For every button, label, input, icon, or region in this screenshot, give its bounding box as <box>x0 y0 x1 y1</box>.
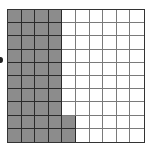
grid-cell-empty <box>117 129 131 142</box>
grid-cell-empty <box>130 102 144 115</box>
grid-cell-empty <box>130 50 144 63</box>
grid-cell-empty <box>117 50 131 63</box>
grid-cell-shaded <box>49 129 63 142</box>
grid-cell-empty <box>103 102 117 115</box>
grid-cell-empty <box>130 129 144 142</box>
grid-cell-empty <box>90 10 104 23</box>
grid-cell-empty <box>90 50 104 63</box>
grid-cell-shaded <box>22 23 36 36</box>
grid-cell-empty <box>62 63 76 76</box>
grid-cell-empty <box>103 63 117 76</box>
grid-cell-shaded <box>22 36 36 49</box>
grid-cell-shaded <box>35 63 49 76</box>
grid-cell-shaded <box>22 102 36 115</box>
grid-cell-shaded <box>49 23 63 36</box>
grid-cell-shaded <box>8 116 22 129</box>
grid-cell-empty <box>117 23 131 36</box>
grid-cell-empty <box>76 129 90 142</box>
grid-cell-empty <box>76 116 90 129</box>
grid-cell-shaded <box>35 50 49 63</box>
grid-cell-shaded <box>49 76 63 89</box>
ten-by-ten-grid <box>7 9 145 143</box>
grid-cell-empty <box>62 76 76 89</box>
grid-cell-empty <box>117 76 131 89</box>
grid-cell-shaded <box>62 129 76 142</box>
grid-cell-shaded <box>22 76 36 89</box>
grid-cell-empty <box>117 116 131 129</box>
grid-cell-empty <box>130 10 144 23</box>
grid-cell-empty <box>76 89 90 102</box>
grid-cell-empty <box>103 76 117 89</box>
grid-cell-shaded <box>22 50 36 63</box>
grid-cell-shaded <box>49 116 63 129</box>
grid-cell-empty <box>117 102 131 115</box>
grid-cell-empty <box>103 116 117 129</box>
grid-cell-empty <box>90 63 104 76</box>
grid-cell-shaded <box>35 129 49 142</box>
grid-cell-empty <box>62 23 76 36</box>
grid-cell-shaded <box>8 89 22 102</box>
grid-cell-empty <box>62 36 76 49</box>
grid-cell-empty <box>76 102 90 115</box>
grid-cell-shaded <box>8 23 22 36</box>
grid-cell-shaded <box>8 10 22 23</box>
grid-cell-shaded <box>35 23 49 36</box>
grid-cell-empty <box>62 89 76 102</box>
grid-cell-shaded <box>49 63 63 76</box>
grid-cell-empty <box>117 89 131 102</box>
grid-cell-empty <box>103 50 117 63</box>
grid-cell-empty <box>117 36 131 49</box>
grid-cell-shaded <box>22 116 36 129</box>
grid-cell-empty <box>90 76 104 89</box>
grid-cell-empty <box>103 89 117 102</box>
grid-cell-empty <box>76 23 90 36</box>
grid-cell-shaded <box>8 63 22 76</box>
grid-cell-empty <box>117 10 131 23</box>
grid-cell-empty <box>62 102 76 115</box>
grid-cell-empty <box>103 129 117 142</box>
grid-cell-empty <box>130 36 144 49</box>
grid-cell-shaded <box>49 36 63 49</box>
grid-cell-shaded <box>22 63 36 76</box>
grid-cell-shaded <box>35 36 49 49</box>
grid-cell-shaded <box>49 89 63 102</box>
grid-cell-shaded <box>35 76 49 89</box>
grid-cell-empty <box>62 10 76 23</box>
grid-cell-shaded <box>49 50 63 63</box>
grid-cell-shaded <box>22 89 36 102</box>
grid-cell-empty <box>103 23 117 36</box>
grid-cell-empty <box>90 89 104 102</box>
grid-cell-empty <box>76 36 90 49</box>
grid-cell-empty <box>90 23 104 36</box>
grid-cell-shaded <box>8 102 22 115</box>
grid-cell-empty <box>103 10 117 23</box>
grid-cell-empty <box>103 36 117 49</box>
grid-cell-shaded <box>35 102 49 115</box>
grid-cell-shaded <box>8 129 22 142</box>
grid-cell-shaded <box>62 116 76 129</box>
hundred-grid-figure <box>0 0 152 156</box>
grid-cell-empty <box>130 23 144 36</box>
grid-cell-shaded <box>35 10 49 23</box>
grid-cell-shaded <box>35 89 49 102</box>
bullet-marker-icon <box>0 57 3 63</box>
grid-cell-empty <box>76 76 90 89</box>
grid-cell-empty <box>117 63 131 76</box>
grid-cell-empty <box>90 116 104 129</box>
grid-cell-empty <box>76 63 90 76</box>
grid-cell-empty <box>130 116 144 129</box>
grid-cell-empty <box>76 10 90 23</box>
grid-cell-shaded <box>49 102 63 115</box>
grid-cell-empty <box>90 36 104 49</box>
grid-cell-shaded <box>22 129 36 142</box>
grid-cell-empty <box>90 129 104 142</box>
grid-cell-empty <box>130 63 144 76</box>
grid-cell-shaded <box>35 116 49 129</box>
grid-cell-empty <box>130 76 144 89</box>
grid-cell-empty <box>90 102 104 115</box>
grid-cell-empty <box>62 50 76 63</box>
grid-cell-shaded <box>22 10 36 23</box>
grid-cell-shaded <box>8 76 22 89</box>
grid-cell-shaded <box>8 36 22 49</box>
grid-cell-shaded <box>8 50 22 63</box>
